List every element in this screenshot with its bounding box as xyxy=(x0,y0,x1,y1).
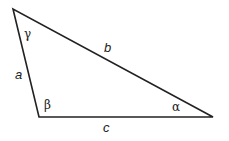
side-c-label: c xyxy=(103,120,110,135)
angle-beta-label: β xyxy=(44,98,51,112)
side-b-label: b xyxy=(104,40,111,55)
angle-gamma-label: γ xyxy=(24,27,31,41)
triangle-diagram: a b c γ β α xyxy=(0,0,229,141)
side-a-label: a xyxy=(15,67,22,82)
angle-alpha-label: α xyxy=(172,100,180,114)
triangle-shape xyxy=(13,9,213,117)
